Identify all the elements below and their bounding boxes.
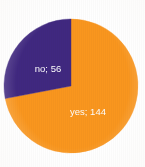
pie-slice-no[interactable] [4, 19, 71, 99]
pie-chart-svg: yes; 144 no; 56 [0, 0, 145, 167]
pie-chart-figure: yes; 144 no; 56 [0, 0, 145, 167]
pie-slice-label-yes: yes; 144 [70, 106, 106, 117]
pie-slice-label-no: no; 56 [35, 63, 61, 74]
